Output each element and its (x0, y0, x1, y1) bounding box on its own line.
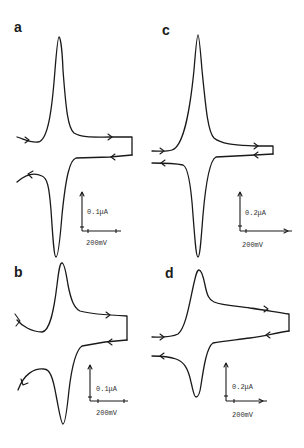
panel-label-c: c (162, 22, 170, 38)
potential-scale-label-b: 200mV (96, 409, 118, 417)
cyclic-voltammetry-figure: a 0.1μA 200mV c (0, 0, 304, 448)
panel-a: a 0.1μA 200mV (14, 19, 132, 257)
scale-bar-d: 0.2μA 200mV (224, 363, 267, 419)
panel-label-d: d (165, 265, 174, 281)
current-scale-label-c: 0.2μA (245, 209, 267, 217)
panel-d: d 0.2μA 200mV (152, 265, 289, 419)
current-scale-label-d: 0.2μA (232, 383, 254, 391)
scale-bar-c: 0.2μA 200mV (238, 192, 292, 249)
panel-c: c 0.2μA 200mV (152, 22, 292, 257)
voltammogram-forward-a (17, 37, 132, 155)
panel-label-b: b (14, 264, 23, 280)
potential-scale-label-d: 200mV (232, 411, 254, 419)
potential-scale-label-c: 200mV (242, 241, 264, 249)
voltammogram-reverse-a (17, 155, 132, 257)
scale-bar-b: 0.1μA 200mV (88, 365, 128, 417)
scale-bar-a: 0.1μA 200mV (80, 192, 121, 247)
current-scale-label-b: 0.1μA (96, 385, 118, 393)
current-scale-label-a: 0.1μA (87, 208, 109, 216)
potential-scale-label-a: 200mV (86, 239, 108, 247)
panel-label-a: a (14, 19, 22, 35)
arrow-icon (21, 379, 28, 385)
voltammogram-forward-c (152, 35, 273, 154)
voltammogram-reverse-d (152, 331, 289, 397)
voltammogram-forward-b (17, 263, 127, 340)
panel-b: b 0.1μA 200mV (14, 263, 128, 424)
